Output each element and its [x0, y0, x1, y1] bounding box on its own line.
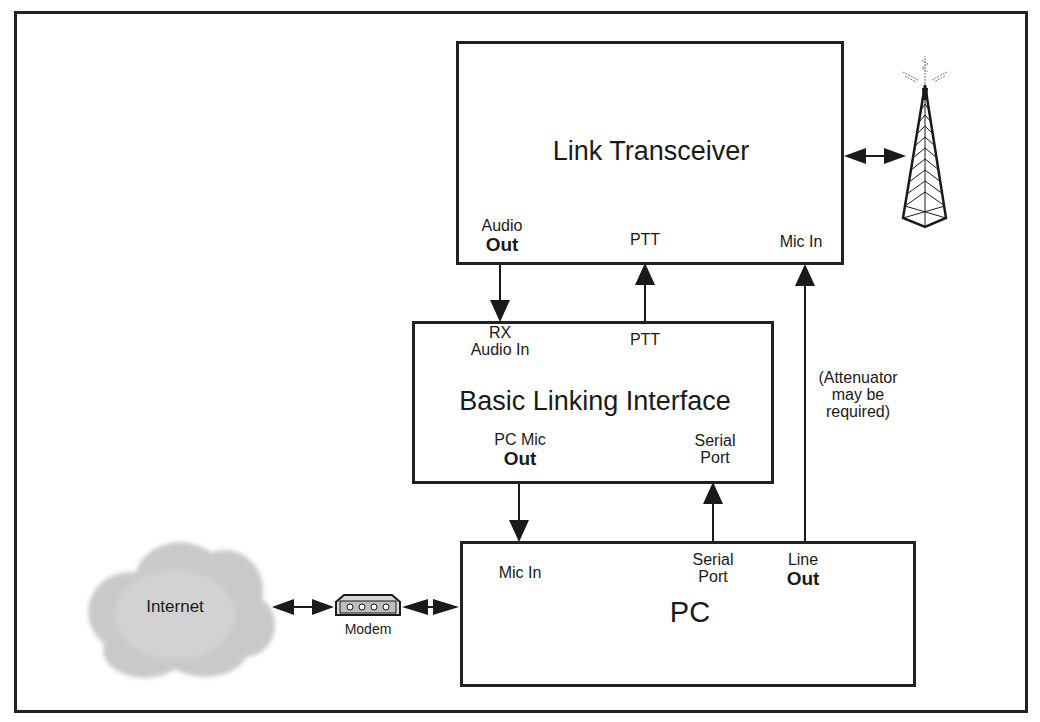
transceiver-mic-in-label: Mic In — [766, 234, 836, 251]
arrow-internet-modem — [272, 599, 334, 615]
modem-label: Modem — [333, 622, 403, 637]
pc-serial-port-label: Serial Port — [678, 552, 748, 586]
interface-serial-port-label: Serial Port — [680, 433, 750, 467]
pc-mic-in-label: Mic In — [485, 565, 555, 582]
interface-rx-audio-in-label: RX Audio In — [460, 325, 540, 359]
attenuator-note: (Attenuator may be required) — [808, 370, 908, 420]
modem-icon — [336, 595, 400, 615]
arrow-audio-out-to-rx — [490, 263, 510, 322]
internet-label: Internet — [130, 598, 220, 616]
arrow-pc-mic-out-to-mic-in — [509, 482, 529, 542]
arrow-modem-pc — [402, 599, 459, 615]
transceiver-ptt-label: PTT — [620, 232, 670, 249]
pc-line-out-label: Line Out — [773, 552, 833, 589]
radio-tower-icon — [903, 56, 947, 227]
arrow-ptt-up — [635, 263, 655, 322]
pc-title: PC — [660, 597, 720, 627]
arrow-transceiver-antenna — [844, 148, 906, 164]
interface-pc-mic-out-label: PC Mic Out — [480, 432, 560, 469]
basic-linking-interface-title: Basic Linking Interface — [430, 387, 760, 415]
interface-ptt-label: PTT — [620, 332, 670, 349]
link-transceiver-title: Link Transceiver — [536, 137, 766, 165]
transceiver-audio-out-label: Audio Out — [472, 218, 532, 255]
arrow-serial-up — [703, 482, 723, 542]
